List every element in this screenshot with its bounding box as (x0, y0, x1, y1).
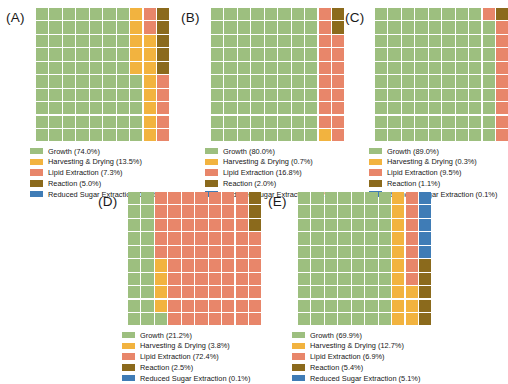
waffle-cell (319, 129, 331, 141)
legend-swatch-harvesting_drying (122, 343, 135, 350)
waffle-cell (483, 75, 495, 87)
waffle-cell (222, 300, 234, 312)
waffle-grid-slot (375, 8, 508, 141)
legend-swatch-harvesting_drying (30, 159, 43, 166)
legend-label-lipid_extraction: Lipid Extraction (16.8%) (223, 168, 302, 177)
waffle-cell (209, 313, 221, 325)
waffle-cell (238, 116, 250, 128)
panel-header-e: (E) (268, 192, 431, 325)
waffle-cell (157, 89, 169, 101)
waffle-cell (406, 313, 418, 325)
waffle-cell (406, 219, 418, 231)
panel-label-b: (B) (181, 10, 211, 25)
waffle-cell (144, 75, 156, 87)
waffle-cell (182, 246, 194, 258)
waffle-cell (278, 75, 290, 87)
waffle-cell (128, 246, 140, 258)
waffle-cell (392, 246, 404, 258)
waffle-cell (63, 21, 75, 33)
waffle-cell (483, 102, 495, 114)
waffle-grid-c (375, 8, 508, 141)
panel-a: (A)Growth (74.0%)Harvesting & Drying (13… (6, 8, 169, 200)
waffle-cell (352, 219, 364, 231)
legend-label-harvesting_drying: Harvesting & Drying (12.7%) (310, 341, 404, 350)
waffle-cell (128, 286, 140, 298)
waffle-cell (63, 75, 75, 87)
waffle-cell (429, 35, 441, 47)
waffle-cell (128, 219, 140, 231)
waffle-cell (325, 246, 337, 258)
waffle-cell (76, 21, 88, 33)
panel-label-e: (E) (268, 194, 298, 209)
waffle-cell (195, 286, 207, 298)
waffle-cell (325, 300, 337, 312)
waffle-cell (222, 205, 234, 217)
legend-item-lipid_extraction: Lipid Extraction (9.5%) (369, 168, 508, 177)
legend-label-growth: Growth (74.0%) (48, 147, 100, 156)
waffle-cell (332, 62, 344, 74)
waffle-cell (392, 219, 404, 231)
legend-a: Growth (74.0%)Harvesting & Drying (13.5%… (6, 146, 169, 198)
waffle-cell (332, 116, 344, 128)
waffle-cell (36, 116, 48, 128)
waffle-cell (496, 48, 508, 60)
waffle-cell (209, 300, 221, 312)
waffle-cell (456, 8, 468, 20)
legend-label-lipid_extraction: Lipid Extraction (9.5%) (387, 168, 462, 177)
waffle-cell (375, 8, 387, 20)
waffle-cell (483, 35, 495, 47)
legend-label-harvesting_drying: Harvesting & Drying (3.8%) (140, 341, 230, 350)
waffle-cell (168, 192, 180, 204)
waffle-cell (130, 8, 142, 20)
waffle-cell (292, 116, 304, 128)
waffle-cell (379, 232, 391, 244)
legend-item-reaction: Reaction (2.0%) (205, 179, 344, 188)
waffle-cell (265, 8, 277, 20)
waffle-cell (402, 62, 414, 74)
waffle-cell (155, 313, 167, 325)
waffle-cell (392, 286, 404, 298)
waffle-cell (155, 286, 167, 298)
legend-item-reaction: Reaction (1.1%) (369, 179, 508, 188)
waffle-cell (429, 21, 441, 33)
waffle-cell (483, 48, 495, 60)
waffle-cell (292, 75, 304, 87)
waffle-cell (209, 273, 221, 285)
waffle-cell (483, 129, 495, 141)
waffle-cell (63, 129, 75, 141)
waffle-cell (365, 205, 377, 217)
legend-label-lipid_extraction: Lipid Extraction (7.3%) (48, 168, 123, 177)
waffle-cell (305, 21, 317, 33)
waffle-cell (469, 116, 481, 128)
waffle-cell (49, 129, 61, 141)
panel-b: (B)Growth (80.0%)Harvesting & Drying (0.… (181, 8, 344, 200)
panel-header-a: (A) (6, 8, 169, 141)
waffle-cell (155, 259, 167, 271)
waffle-cell (332, 21, 344, 33)
waffle-cell (429, 129, 441, 141)
waffle-cell (144, 102, 156, 114)
waffle-cell (375, 48, 387, 60)
waffle-cell (249, 300, 261, 312)
waffle-cell (392, 232, 404, 244)
waffle-cell (415, 48, 427, 60)
waffle-cell (311, 246, 323, 258)
waffle-cell (375, 102, 387, 114)
waffle-cell (182, 300, 194, 312)
waffle-cell (278, 89, 290, 101)
waffle-cell (141, 300, 153, 312)
waffle-cell (211, 21, 223, 33)
waffle-cell (157, 116, 169, 128)
waffle-cell (157, 21, 169, 33)
legend-label-reaction: Reaction (2.5%) (140, 363, 193, 372)
legend-swatch-reduced_sugar_extraction (292, 375, 305, 382)
waffle-cell (278, 102, 290, 114)
waffle-cell (168, 313, 180, 325)
waffle-cell (402, 48, 414, 60)
waffle-cell (36, 48, 48, 60)
legend-label-reaction: Reaction (2.0%) (223, 179, 276, 188)
waffle-cell (128, 313, 140, 325)
legend-label-growth: Growth (80.0%) (223, 147, 275, 156)
waffle-cell (130, 21, 142, 33)
